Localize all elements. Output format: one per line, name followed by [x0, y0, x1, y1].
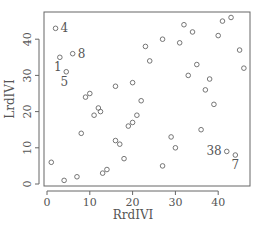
data-point: [70, 51, 75, 56]
y-tick-label: 20: [21, 105, 34, 119]
point-label: 7: [231, 158, 239, 172]
data-point: [242, 66, 247, 71]
x-tick-label: 30: [168, 196, 182, 209]
data-points: 4185387: [49, 15, 246, 183]
data-point: [49, 160, 54, 165]
data-point: [212, 102, 217, 107]
data-point: [53, 26, 58, 31]
data-point: [79, 131, 84, 136]
data-point: [203, 88, 208, 93]
point-label: 38: [206, 144, 221, 158]
y-axis-title: LrdIVI: [3, 79, 17, 119]
data-point: [113, 84, 118, 89]
data-point: [224, 149, 229, 154]
data-point: [207, 77, 212, 82]
data-point: [143, 44, 148, 49]
data-point: [75, 174, 80, 179]
data-point: [58, 55, 63, 60]
y-tick-label: 30: [21, 68, 34, 82]
point-label: 1: [54, 60, 62, 74]
data-point: [160, 164, 165, 169]
data-point: [64, 69, 69, 74]
x-tick-label: 10: [83, 196, 97, 209]
data-point: [135, 113, 140, 118]
data-point: [130, 80, 135, 85]
data-point: [98, 109, 103, 114]
data-point: [199, 127, 204, 132]
data-point: [105, 167, 110, 172]
data-point: [216, 33, 221, 38]
data-point: [229, 15, 234, 20]
data-point: [220, 19, 225, 24]
data-point: [130, 120, 135, 125]
point-label: 4: [61, 21, 69, 35]
data-point: [177, 41, 182, 46]
y-axis: 010203040: [21, 32, 39, 187]
data-point: [139, 98, 144, 103]
data-point: [83, 95, 88, 100]
data-point: [190, 30, 195, 35]
data-point: [126, 124, 131, 129]
x-tick-label: 0: [44, 196, 51, 209]
data-point: [173, 146, 178, 151]
data-point: [88, 91, 93, 96]
data-point: [122, 156, 127, 161]
y-tick-label: 10: [21, 141, 34, 155]
data-point: [113, 138, 118, 143]
y-tick-label: 0: [21, 181, 34, 188]
data-point: [117, 142, 122, 147]
data-point: [182, 22, 187, 27]
data-point: [147, 59, 152, 64]
data-point: [195, 62, 200, 67]
data-point: [169, 135, 174, 140]
x-tick-label: 40: [211, 196, 225, 209]
y-tick-label: 40: [21, 32, 34, 46]
x-axis: 010203040: [44, 191, 226, 209]
data-point: [160, 37, 165, 42]
scatter-chart: 010203040 010203040 4185387 RrdIVI LrdIV…: [0, 0, 264, 228]
data-point: [100, 171, 105, 176]
data-point: [233, 153, 238, 158]
point-label: 5: [60, 75, 68, 89]
data-point: [92, 113, 97, 118]
data-point: [237, 48, 242, 53]
point-label: 8: [78, 47, 86, 61]
data-point: [186, 73, 191, 78]
data-point: [62, 178, 67, 183]
x-axis-title: RrdIVI: [113, 208, 154, 222]
